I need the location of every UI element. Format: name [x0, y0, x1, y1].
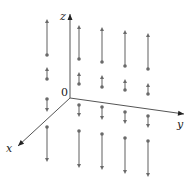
arrow-up-icon — [45, 19, 49, 23]
vector-arrow-up — [45, 67, 49, 81]
arrow-down-icon — [123, 120, 127, 124]
x-axis — [18, 98, 70, 146]
vector-arrow-down — [45, 125, 49, 162]
vector-base-point — [77, 129, 81, 133]
vector-base-point — [146, 114, 150, 118]
vector-arrow-up — [100, 75, 104, 89]
arrow-up-icon — [77, 72, 81, 76]
vector-base-point — [100, 105, 104, 109]
vector-base-point — [45, 97, 49, 101]
coordinate-axes: z y x 0 — [6, 10, 184, 155]
y-axis-arrowhead-icon — [178, 111, 184, 116]
y-axis — [70, 98, 184, 114]
arrow-down-icon — [146, 124, 150, 128]
vector-arrow-down — [146, 139, 150, 177]
vector-base-point — [77, 82, 81, 86]
arrow-up-icon — [77, 25, 81, 29]
arrow-up-icon — [146, 33, 150, 37]
vector-arrow-down — [100, 132, 104, 170]
vector-arrow-down — [77, 129, 81, 168]
vector-base-point — [146, 67, 150, 71]
vector-base-point — [100, 60, 104, 64]
vector-field-diagram: z y x 0 — [0, 0, 193, 184]
vector-base-point — [123, 88, 127, 92]
vector-arrow-up — [123, 30, 127, 68]
arrow-up-icon — [146, 83, 150, 87]
arrow-up-icon — [123, 79, 127, 83]
arrow-down-icon — [77, 164, 81, 168]
vector-base-point — [45, 125, 49, 129]
arrow-down-icon — [77, 113, 81, 117]
vector-base-point — [45, 77, 49, 81]
vector-arrow-up — [146, 33, 150, 71]
arrow-down-icon — [45, 158, 49, 162]
vector-base-point — [146, 92, 150, 96]
vector-arrow-down — [45, 97, 49, 112]
arrow-down-icon — [45, 108, 49, 112]
z-axis-arrowhead-icon — [68, 14, 73, 20]
arrow-down-icon — [100, 116, 104, 120]
arrow-down-icon — [146, 173, 150, 177]
x-axis-label: x — [6, 142, 13, 155]
origin-label: 0 — [61, 86, 68, 99]
vector-base-point — [100, 132, 104, 136]
vector-arrow-down — [146, 114, 150, 128]
vector-arrow-down — [77, 103, 81, 117]
vector-arrow-down — [123, 110, 127, 124]
vector-base-point — [123, 110, 127, 114]
vector-base-point — [123, 136, 127, 140]
vector-arrow-up — [100, 27, 104, 64]
arrow-down-icon — [123, 170, 127, 174]
arrow-up-icon — [123, 30, 127, 34]
vector-base-point — [45, 53, 49, 57]
vector-arrow-down — [123, 136, 127, 174]
vector-arrow-up — [146, 83, 150, 96]
arrow-up-icon — [45, 67, 49, 71]
z-axis-label: z — [59, 10, 66, 23]
arrow-up-icon — [100, 27, 104, 31]
vector-base-point — [77, 57, 81, 61]
vector-arrow-up — [77, 72, 81, 86]
vector-arrow-up — [123, 79, 127, 92]
vector-base-point — [123, 64, 127, 68]
vector-arrow-up — [77, 25, 81, 61]
arrow-up-icon — [100, 75, 104, 79]
vector-arrow-down — [100, 105, 104, 120]
vector-base-point — [100, 85, 104, 89]
arrow-down-icon — [100, 166, 104, 170]
vector-arrow-up — [45, 19, 49, 57]
y-axis-label: y — [176, 118, 184, 131]
vector-base-point — [146, 139, 150, 143]
vector-base-point — [77, 103, 81, 107]
